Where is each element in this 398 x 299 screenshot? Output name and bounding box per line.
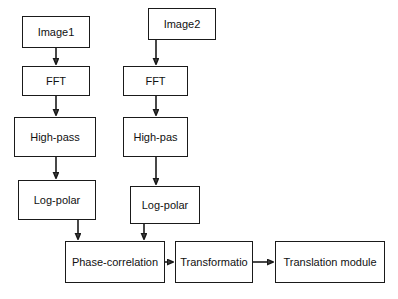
node-highpass-left[interactable]: High-pass — [14, 117, 96, 157]
node-fft-left[interactable]: FFT — [22, 66, 90, 96]
node-fft-right-label: FFT — [142, 76, 168, 87]
node-logpolar-right-label: Log-polar — [139, 200, 191, 211]
node-transformation[interactable]: Transformatio — [175, 241, 253, 283]
node-phase-correlation-label: Phase-correlation — [69, 257, 161, 268]
node-transformation-label: Transformatio — [177, 257, 250, 268]
node-fft-left-label: FFT — [43, 76, 69, 87]
node-image2-label: Image2 — [161, 19, 204, 30]
node-translation-module-label: Translation module — [280, 257, 379, 268]
node-highpass-right-label: High-pas — [130, 132, 180, 143]
node-logpolar-left[interactable]: Log-polar — [18, 180, 96, 220]
node-image2[interactable]: Image2 — [148, 8, 216, 40]
flowchart-canvas: Image1 FFT High-pass Log-polar Image2 FF… — [0, 0, 398, 299]
node-fft-right[interactable]: FFT — [123, 66, 188, 96]
node-highpass-left-label: High-pass — [27, 132, 83, 143]
node-image1-label: Image1 — [35, 27, 78, 38]
node-phase-correlation[interactable]: Phase-correlation — [65, 241, 165, 283]
node-highpass-right[interactable]: High-pas — [123, 117, 188, 157]
node-logpolar-left-label: Log-polar — [31, 195, 83, 206]
node-image1[interactable]: Image1 — [22, 16, 90, 48]
node-translation-module[interactable]: Translation module — [275, 241, 385, 283]
node-logpolar-right[interactable]: Log-polar — [130, 186, 200, 224]
